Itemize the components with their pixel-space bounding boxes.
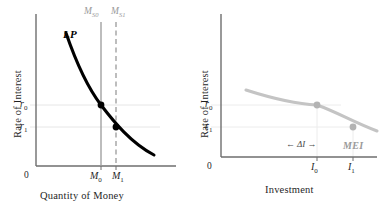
mei-curve-label: MEI [343,140,363,151]
x-tick-label-m0: M0 [90,170,102,184]
chart-panel-mei: r0 r1 I0 I1 ← ΔI → MEI 0 Rate of Interes… [191,0,382,212]
mei-point-1 [350,124,357,131]
x-axis-title-left: Quantity of Money [40,190,124,201]
x-axis-title-right: Investment [265,184,314,195]
lp-equilibrium-point-0 [98,102,105,109]
y-axis-title-right: Rate of Interest [199,70,210,138]
lp-curve [66,33,154,155]
lp-equilibrium-point-1 [113,124,120,131]
label-ms0: MS0 [84,6,98,18]
lp-curve-label: LP [63,28,77,40]
mei-chart-svg [191,0,382,212]
x-tick-label-i1: I1 [348,161,355,175]
mei-curve [246,90,377,131]
y-axis-title-left: Rate of Interest [12,70,23,138]
x-tick-label-m1: M1 [112,170,124,184]
label-ms1: MS1 [111,6,125,18]
chart-panel-liquidity-preference: MS0 MS1 LP r0 r1 M0 M1 0 Rate of Interes… [0,0,191,212]
x-tick-label-i0: I0 [311,161,318,175]
origin-label-right: 0 [207,161,212,171]
origin-label-left: 0 [24,170,29,180]
mei-point-0 [314,102,321,109]
delta-investment-annotation: ← ΔI → [286,139,317,149]
